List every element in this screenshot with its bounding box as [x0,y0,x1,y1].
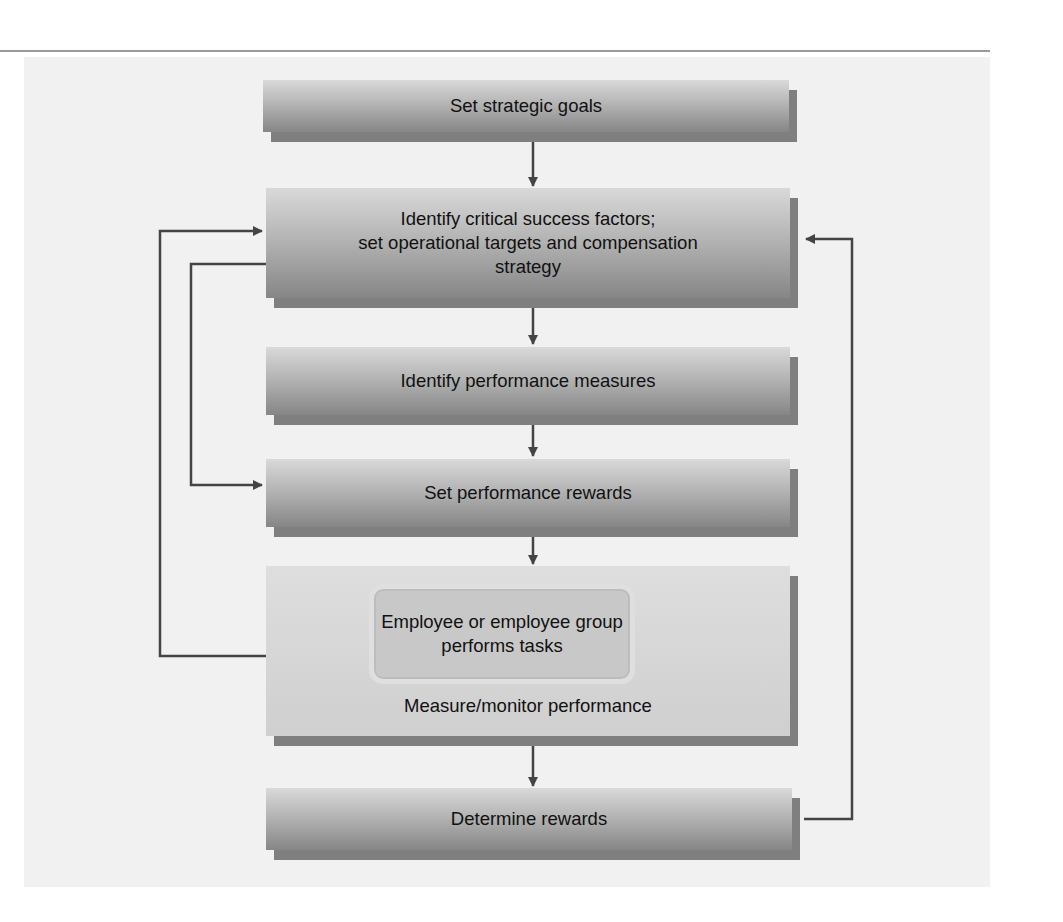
node-identify-performance-measures: Identify performance measures [266,347,790,415]
node-label: Determine rewards [451,807,607,831]
node-employee-performs-tasks: Employee or employee group performs task… [369,584,635,684]
node-label-line: strategy [495,255,561,279]
node-determine-rewards: Determine rewards [266,788,792,850]
node-identify-critical-success-factors: Identify critical success factors; set o… [266,188,790,298]
node-label: Set strategic goals [450,94,602,118]
node-label: Set performance rewards [424,481,632,505]
node-label-line: set operational targets and compensation [358,231,697,255]
node-label-line: Employee or employee group [381,610,623,634]
arrow-feedback-csf-to-rewards [191,264,266,485]
arrow-feedback-determine-to-csf [804,239,852,819]
node-label-line: performs tasks [441,634,562,658]
node-label: Measure/monitor performance [266,694,790,718]
node-measure-monitor-performance: Employee or employee group performs task… [266,566,790,736]
node-set-strategic-goals: Set strategic goals [263,80,789,132]
node-set-performance-rewards: Set performance rewards [266,459,790,527]
node-label-line: Identify critical success factors; [401,207,656,231]
node-label: Identify performance measures [400,369,655,393]
arrow-feedback-monitor-to-csf [160,231,266,656]
